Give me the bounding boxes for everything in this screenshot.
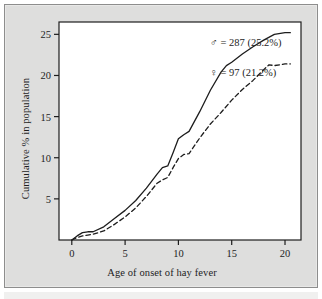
x-tick-label: 10 [173, 248, 184, 259]
bottom-strip [4, 292, 318, 299]
y-tick-label: 25 [29, 29, 51, 40]
y-tick-label: 20 [29, 70, 51, 81]
y-tick-label: 10 [29, 152, 51, 163]
y-axis-ticks [54, 34, 59, 199]
series-annotation-female: ♀ = 97 (21.2%) [210, 67, 276, 78]
series-annotation-male: ♂ = 287 (25.2%) [210, 37, 282, 48]
y-tick-label: 5 [29, 193, 51, 204]
x-tick-label: 20 [280, 248, 291, 259]
x-axis-title: Age of onset of hay fever [5, 267, 319, 278]
x-tick-label: 5 [122, 248, 127, 259]
figure-panel: Age of onset of hay fever Cumulative % i… [4, 4, 318, 288]
y-tick-label: 15 [29, 111, 51, 122]
plot-background [59, 22, 301, 240]
x-tick-label: 15 [226, 248, 237, 259]
chart-area: Age of onset of hay fever Cumulative % i… [5, 5, 319, 289]
x-axis-ticks [72, 240, 285, 245]
x-tick-label: 0 [69, 248, 74, 259]
